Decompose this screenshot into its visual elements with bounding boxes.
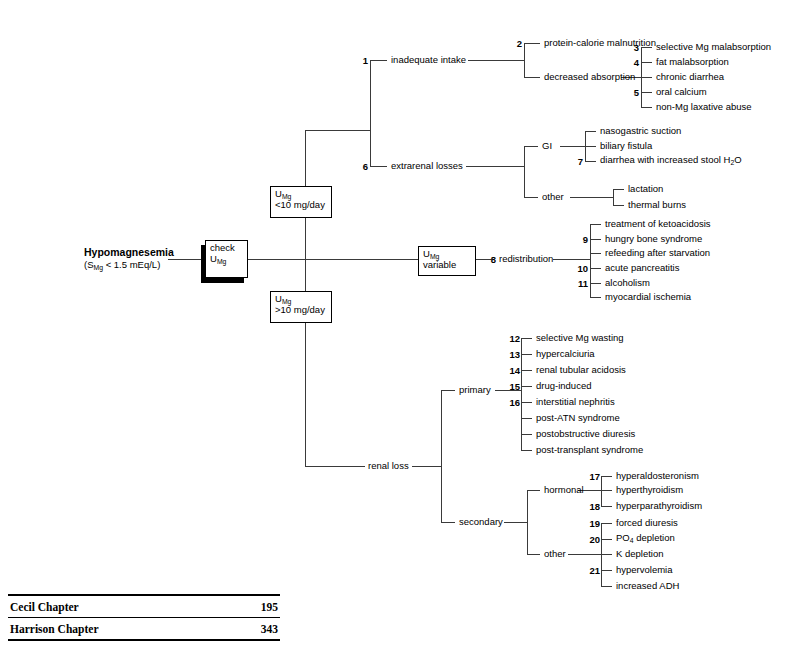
node-oral-calcium[interactable]: oral calcium [656,87,707,98]
node-biliary-fistula[interactable]: biliary fistula [600,141,652,152]
node-gi[interactable]: GI [542,141,552,152]
node-num-3: 3 [621,42,639,53]
node-decreased-absorption[interactable]: decreased absorption [544,72,635,83]
diagram-subtitle: (SMg < 1.5 mEq/L) [84,259,160,271]
node-treatment-of-ketoacidosis[interactable]: treatment of ketoacidosis [605,219,711,230]
node-primary[interactable]: primary [459,385,491,396]
node-myocardial-ischemia[interactable]: myocardial ischemia [605,292,691,303]
node-acute-pancreatitis[interactable]: acute pancreatitis [605,263,679,274]
node-forced-diuresis[interactable]: forced diuresis [616,518,678,529]
node-num-2: 2 [504,38,522,49]
node-redistribution[interactable]: redistribution [499,254,553,265]
node-po4-depletion[interactable]: PO4 depletion [616,533,675,544]
node-num-1: 1 [350,55,368,66]
node-thermal-burns[interactable]: thermal burns [628,200,686,211]
node-num-18: 18 [578,501,600,512]
node-num-11: 11 [566,278,588,289]
node-non-mg-laxative-abuse[interactable]: non-Mg laxative abuse [656,102,752,113]
node-post-transplant-syndrome[interactable]: post-transplant syndrome [536,445,643,456]
node-num-21: 21 [578,565,600,576]
node-interstitial-nephritis[interactable]: interstitial nephritis [536,397,615,408]
node-postobstructive-diuresis[interactable]: postobstructive diuresis [536,429,635,440]
reference-value-cecil: 195 [229,595,280,618]
node-extrarenal-losses[interactable]: extrarenal losses [391,161,463,172]
node-hyperparathyroidism[interactable]: hyperparathyroidism [616,501,702,512]
connector-lines [0,0,795,663]
node-selective-mg-malabsorption[interactable]: selective Mg malabsorption [656,42,771,53]
node-num-16: 16 [498,397,520,408]
node-hypercalciuria[interactable]: hypercalciuria [536,349,595,360]
node-renal-tubular-acidosis[interactable]: renal tubular acidosis [536,365,626,376]
box-check-line2: UMg [210,254,243,265]
node-hyperaldosteronism[interactable]: hyperaldosteronism [616,471,699,482]
node-num-6: 6 [350,161,368,172]
node-num-17: 17 [578,471,600,482]
node-num-13: 13 [498,349,520,360]
node-alcoholism[interactable]: alcoholism [605,278,650,289]
reference-label-harrison: Harrison Chapter [8,618,229,641]
node-num-5: 5 [621,87,639,98]
node-num-12: 12 [498,333,520,344]
node-num-14: 14 [498,365,520,376]
table-row: Harrison Chapter 343 [8,618,280,641]
reference-value-harrison: 343 [229,618,280,641]
node-other-renal[interactable]: other [544,549,566,560]
reference-label-cecil: Cecil Chapter [8,595,229,618]
reference-table: Cecil Chapter 195 Harrison Chapter 343 [8,594,280,641]
node-other-extrarenal[interactable]: other [542,192,564,203]
reference-table-body: Cecil Chapter 195 Harrison Chapter 343 [8,595,280,640]
node-num-15: 15 [498,381,520,392]
node-num-8: 8 [478,254,496,265]
node-secondary[interactable]: secondary [459,517,503,528]
diagram-title: Hypomagnesemia [84,246,174,258]
node-k-depletion[interactable]: K depletion [616,549,664,560]
box-low-line2: <10 mg/day [275,200,327,211]
box-high-line2: >10 mg/day [275,305,327,316]
node-lactation[interactable]: lactation [628,184,663,195]
node-chronic-diarrhea[interactable]: chronic diarrhea [656,72,724,83]
node-num-10: 10 [566,263,588,274]
node-hypervolemia[interactable]: hypervolemia [616,565,673,576]
node-drug-induced[interactable]: drug-induced [536,381,591,392]
node-num-20: 20 [578,534,600,545]
node-num-19: 19 [578,518,600,529]
box-variable-line2: variable [423,260,471,271]
node-fat-malabsorption[interactable]: fat malabsorption [656,57,729,68]
node-hungry-bone-syndrome[interactable]: hungry bone syndrome [605,234,702,245]
node-renal-loss[interactable]: renal loss [368,461,409,472]
box-umg-variable[interactable]: UMg variable [418,246,476,276]
node-selective-mg-wasting[interactable]: selective Mg wasting [536,333,624,344]
node-inadequate-intake[interactable]: inadequate intake [391,55,466,66]
node-hormonal[interactable]: hormonal [544,485,584,496]
node-post-atn-syndrome[interactable]: post-ATN syndrome [536,413,620,424]
node-diarrhea-increased-stool-water[interactable]: diarrhea with increased stool H2O [600,155,742,166]
table-row: Cecil Chapter 195 [8,595,280,618]
node-protein-calorie-malnutrition[interactable]: protein-calorie malnutrition [544,38,656,49]
node-increased-adh[interactable]: increased ADH [616,581,679,592]
box-check-umg[interactable]: check UMg [205,240,248,278]
algorithm-page: Hypomagnesemia (SMg < 1.5 mEq/L) check U… [0,0,795,663]
node-refeeding-after-starvation[interactable]: refeeding after starvation [605,248,710,259]
box-umg-high[interactable]: UMg >10 mg/day [270,291,332,323]
node-num-9: 9 [570,234,588,245]
node-nasogastric-suction[interactable]: nasogastric suction [600,126,681,137]
node-num-7: 7 [565,156,583,167]
box-umg-low[interactable]: UMg <10 mg/day [270,186,332,218]
node-num-4: 4 [621,57,639,68]
node-hyperthyroidism[interactable]: hyperthyroidism [616,485,683,496]
